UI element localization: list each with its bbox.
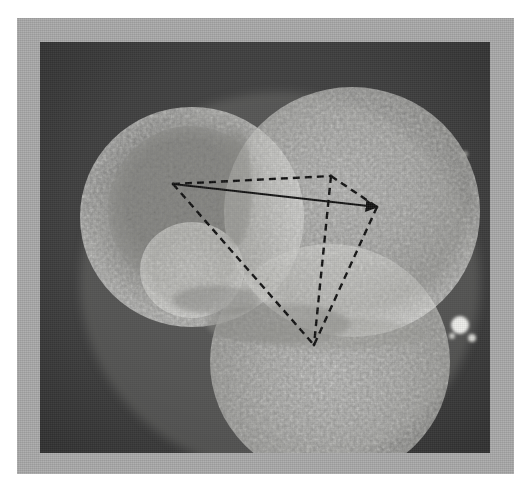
figure-root [0,0,529,486]
particle-upper-right-sphere [224,87,480,337]
specimen-image [40,42,490,453]
micrograph-field [40,42,490,453]
micrograph-mount-frame [17,18,514,474]
